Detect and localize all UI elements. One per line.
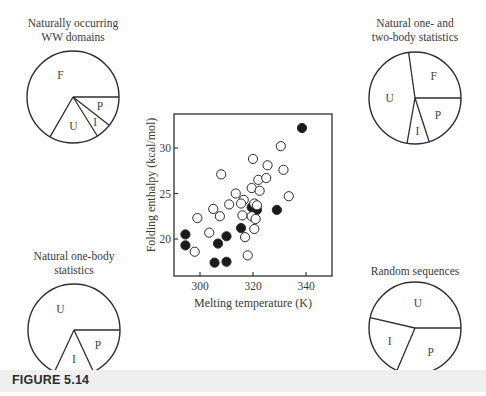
- pie-random: PIU: [369, 282, 461, 374]
- open-data-point: [263, 161, 272, 170]
- open-data-point: [236, 199, 245, 208]
- y-tick-label: 25: [160, 188, 172, 200]
- scatter-plot: 300320340202530Melting temperature (K)Fo…: [144, 114, 332, 310]
- y-tick-label: 30: [160, 142, 172, 154]
- y-tick-label: 20: [160, 233, 172, 245]
- figure-caption: FIGURE 5.14: [12, 373, 89, 387]
- open-data-point: [250, 224, 259, 233]
- filled-data-point: [181, 230, 190, 239]
- filled-data-point: [213, 239, 222, 248]
- pie-naturally-occurring: PIUF: [27, 51, 119, 143]
- open-data-point: [251, 214, 260, 223]
- y-axis-label: Folding enthalpy (kcal/mol): [144, 118, 158, 253]
- pie-slice-label: I: [415, 125, 419, 137]
- pie-slice-label: F: [431, 70, 437, 82]
- pie-slice-label: I: [93, 116, 97, 128]
- open-data-point: [190, 247, 199, 256]
- filled-data-point: [210, 258, 219, 267]
- pie-one-two-body: PIUF: [369, 52, 461, 144]
- open-data-point: [231, 189, 240, 198]
- pie-slice-label: P: [95, 339, 101, 351]
- open-data-point: [205, 228, 214, 237]
- pie-slice-label: I: [72, 353, 76, 365]
- filled-data-point: [222, 232, 231, 241]
- open-data-point: [252, 201, 261, 210]
- pie-slice-label: I: [388, 335, 392, 347]
- pie-slice-label: P: [428, 346, 434, 358]
- open-data-point: [243, 251, 252, 260]
- x-axis-label: Melting temperature (K): [194, 296, 312, 310]
- x-tick-label: 300: [191, 280, 209, 292]
- open-data-point: [217, 170, 226, 179]
- open-data-point: [209, 204, 218, 213]
- open-data-point: [240, 233, 249, 242]
- open-data-point: [255, 186, 264, 195]
- open-data-point: [284, 192, 293, 201]
- filled-data-point: [222, 257, 231, 266]
- pie-slice-label: P: [435, 109, 441, 121]
- open-data-point: [276, 142, 285, 151]
- filled-data-point: [272, 205, 281, 214]
- open-data-point: [193, 213, 202, 222]
- figure-canvas: PIUFPIUFPIUPIU300320340202530Melting tem…: [0, 0, 486, 396]
- pie-slice-label: P: [97, 100, 103, 112]
- filled-data-point: [236, 223, 245, 232]
- x-tick-label: 320: [244, 280, 262, 292]
- open-data-point: [262, 173, 271, 182]
- pie-slice-label: U: [56, 303, 65, 315]
- open-data-point: [248, 154, 257, 163]
- pie-slice-label: U: [414, 297, 423, 309]
- pie-slice-label: U: [69, 120, 78, 132]
- filled-data-point: [181, 241, 190, 250]
- open-data-point: [279, 165, 288, 174]
- open-data-point: [215, 212, 224, 221]
- filled-data-point: [297, 123, 306, 132]
- x-tick-label: 340: [297, 280, 315, 292]
- open-data-point: [238, 211, 247, 220]
- pie-slice-label: U: [386, 92, 395, 104]
- pie-slice-label: F: [57, 69, 63, 81]
- pie-one-body: PIU: [28, 284, 120, 376]
- open-data-point: [225, 200, 234, 209]
